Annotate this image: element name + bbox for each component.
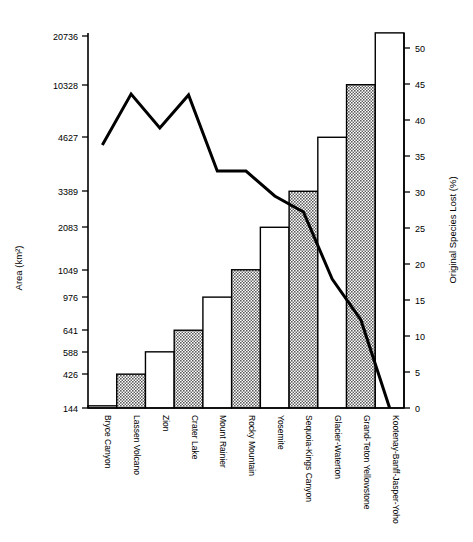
y-left-tick-label: 976 (63, 293, 78, 303)
y-right-tick-label: 20 (415, 260, 425, 270)
x-tick-label-crater-lake: Crater Lake (190, 415, 200, 460)
y-left-tick-label: 144 (63, 404, 78, 414)
y-right-tick-label: 40 (415, 116, 425, 126)
x-tick-label-grand-teton-yellowstone: Grand-Teton Yellowstone (362, 415, 372, 510)
y-right-tick-label: 35 (415, 152, 425, 162)
bar-lassen-volcano (117, 374, 146, 408)
y-left-tick-label: 4627 (58, 133, 78, 143)
x-tick-label-lassen-volcano: Lassen Volcano (132, 415, 142, 475)
bar-crater-lake (174, 330, 203, 408)
y-right-tick-label: 5 (415, 368, 420, 378)
bar-kootenay-banff-jasper-yoho (375, 33, 404, 408)
y-right-tick-label: 30 (415, 188, 425, 198)
bar-grand-teton-yellowstone (347, 85, 376, 408)
y-right-tick-label: 50 (415, 44, 425, 54)
bars-group (88, 33, 404, 408)
chart-canvas: 2073610328462733892083104997664158842614… (0, 0, 473, 542)
y-axis-right-ticks: 50454035302520151050 (404, 44, 425, 414)
bar-glacier-waterton (318, 137, 347, 408)
y-right-tick-label: 45 (415, 80, 425, 90)
bar-mount-rainier (203, 297, 232, 408)
x-tick-label-sequoia-kings-canyon: Sequoia-Kings Canyon (304, 415, 314, 502)
bar-yosemite (260, 227, 289, 408)
y-axis-left-title: Area (km²) (13, 246, 24, 291)
y-right-tick-label: 0 (415, 404, 420, 414)
y-left-tick-label: 641 (63, 326, 78, 336)
bar-sequoia-kings-canyon (289, 191, 318, 408)
y-left-tick-label: 3389 (58, 187, 78, 197)
x-tick-label-zion: Zion (161, 415, 171, 432)
x-tick-label-rocky-mountain: Rocky Mountain (247, 415, 257, 476)
y-left-tick-label: 588 (63, 348, 78, 358)
x-tick-label-glacier-waterton: Glacier-Waterton (333, 415, 343, 479)
y-left-tick-label: 426 (63, 370, 78, 380)
bar-rocky-mountain (232, 270, 261, 408)
x-axis-tick-labels: Bryce CanyonLassen VolcanoZionCrater Lak… (103, 415, 400, 524)
y-axis-left-ticks: 2073610328462733892083104997664158842614… (53, 32, 88, 414)
x-tick-label-yosemite: Yosemite (276, 415, 286, 450)
y-axis-right-title: Original Species Lost (%) (447, 176, 458, 283)
x-tick-label-kootenay-banff-jasper-yoho: Kootenay-Banff-Jasper-Yoho (391, 415, 401, 524)
bar-zion (145, 352, 174, 408)
y-right-tick-label: 10 (415, 332, 425, 342)
y-right-tick-label: 25 (415, 224, 425, 234)
y-left-tick-label: 10328 (53, 81, 78, 91)
y-left-tick-label: 20736 (53, 32, 78, 42)
x-tick-label-mount-rainier: Mount Rainier (218, 415, 228, 468)
y-left-tick-label: 1049 (58, 266, 78, 276)
chart-figure: 2073610328462733892083104997664158842614… (0, 0, 473, 542)
x-tick-label-bryce-canyon: Bryce Canyon (103, 415, 113, 469)
y-left-tick-label: 2083 (58, 223, 78, 233)
y-right-tick-label: 15 (415, 296, 425, 306)
